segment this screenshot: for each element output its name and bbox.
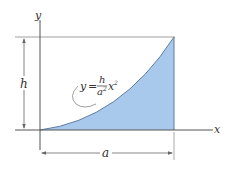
a-arrow-right-icon bbox=[168, 151, 173, 154]
parabolic-area-diagram: y x h a y = h a 2 x 2 bbox=[0, 0, 226, 170]
equation-denominator-exp: 2 bbox=[102, 85, 107, 92]
equation-equals: = bbox=[88, 80, 97, 93]
h-label: h bbox=[20, 77, 28, 91]
y-axis-label: y bbox=[34, 9, 42, 22]
curve-equation: y = h a 2 x 2 bbox=[78, 72, 118, 98]
x-axis-label: x bbox=[214, 123, 221, 136]
h-arrow-top-icon bbox=[22, 38, 25, 43]
h-arrow-bottom-icon bbox=[22, 124, 25, 129]
equation-lhs: y bbox=[79, 80, 87, 93]
equation-var-exp: 2 bbox=[113, 79, 118, 86]
a-label: a bbox=[102, 146, 109, 160]
a-arrow-left-icon bbox=[41, 151, 46, 154]
equation-numerator: h bbox=[99, 74, 105, 85]
